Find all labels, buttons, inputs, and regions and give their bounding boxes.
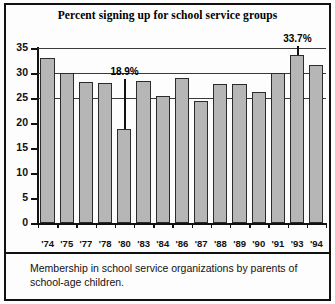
bar <box>98 83 112 223</box>
bar <box>79 82 93 223</box>
bar <box>40 58 54 223</box>
frame-border-caption-right <box>329 252 331 301</box>
x-axis-tick-mark <box>76 223 77 228</box>
x-axis-tick-label: '91 <box>268 238 287 249</box>
gridline <box>38 48 326 49</box>
y-axis-tick-mark <box>31 73 37 75</box>
x-axis-line <box>37 223 326 225</box>
x-axis-tick-mark <box>115 223 116 228</box>
x-axis-tick-label: '93 <box>288 238 307 249</box>
bar <box>232 84 246 223</box>
y-axis-tick-mark <box>31 148 37 150</box>
chart-title: Percent signing up for school service gr… <box>0 9 335 21</box>
chart-figure: Percent signing up for school service gr… <box>0 0 335 304</box>
bar <box>156 96 170 223</box>
x-axis-tick-mark <box>326 223 327 228</box>
x-axis-tick-label: '86 <box>172 238 191 249</box>
x-axis-tick-mark <box>230 223 231 228</box>
y-axis-tick-mark <box>31 223 37 225</box>
x-axis-tick-label: '77 <box>76 238 95 249</box>
bar <box>194 101 208 224</box>
x-axis-tick-mark <box>96 223 97 228</box>
frame-border-right <box>329 3 331 253</box>
x-axis-tick-label: '80 <box>115 238 134 249</box>
x-axis-tick-mark <box>134 223 135 228</box>
x-axis-tick-mark <box>268 223 269 228</box>
x-axis-tick-label: '74 <box>38 238 57 249</box>
y-axis-tick-mark <box>31 123 37 125</box>
y-axis-tick-label: 5 <box>4 191 28 203</box>
frame-border-caption-left <box>4 252 6 301</box>
chart-caption: Membership in school service organizatio… <box>30 262 310 289</box>
y-axis-tick-label: 0 <box>4 216 28 228</box>
data-annotation-label: 18.9% <box>110 66 138 77</box>
bar <box>213 84 227 223</box>
x-axis-tick-label: '89 <box>230 238 249 249</box>
bar <box>290 55 304 224</box>
x-axis-tick-mark <box>153 223 154 228</box>
bar <box>252 92 266 223</box>
y-axis-tick-mark <box>31 198 37 200</box>
x-axis-tick-mark <box>249 223 250 228</box>
x-axis-tick-label: '94 <box>307 238 326 249</box>
annotation-leader-line <box>297 46 298 55</box>
y-axis-tick-label: 30 <box>4 66 28 78</box>
annotation-leader-line <box>124 79 125 129</box>
y-axis-tick-label: 10 <box>4 166 28 178</box>
frame-divider <box>4 252 331 254</box>
y-axis-tick-mark <box>31 173 37 175</box>
x-axis-tick-mark <box>192 223 193 228</box>
x-axis-tick-mark <box>38 223 39 228</box>
bar <box>136 81 150 223</box>
y-axis-tick-mark <box>31 48 37 50</box>
y-axis-tick-label: 20 <box>4 116 28 128</box>
bar <box>271 73 285 224</box>
bar <box>60 73 74 223</box>
x-axis-tick-label: '90 <box>249 238 268 249</box>
x-axis-tick-mark <box>211 223 212 228</box>
frame-border-bottom <box>4 299 331 301</box>
frame-border-top <box>4 3 331 5</box>
y-axis-tick-mark <box>31 98 37 100</box>
y-axis-tick-label: 35 <box>4 41 28 53</box>
x-axis-tick-mark <box>172 223 173 228</box>
x-axis-tick-mark <box>307 223 308 228</box>
x-axis-tick-label: '88 <box>211 238 230 249</box>
x-axis-tick-mark <box>57 223 58 228</box>
bar <box>309 65 323 223</box>
y-axis-tick-label: 15 <box>4 141 28 153</box>
x-axis-tick-mark <box>288 223 289 228</box>
x-axis-tick-label: '83 <box>134 238 153 249</box>
x-axis-tick-label: '75 <box>57 238 76 249</box>
bar <box>117 129 131 224</box>
x-axis-tick-label: '84 <box>153 238 172 249</box>
y-axis-tick-label: 25 <box>4 91 28 103</box>
x-axis-tick-label: '87 <box>192 238 211 249</box>
x-axis-tick-label: '78 <box>96 238 115 249</box>
data-annotation-label: 33.7% <box>283 33 311 44</box>
bar <box>175 78 189 223</box>
